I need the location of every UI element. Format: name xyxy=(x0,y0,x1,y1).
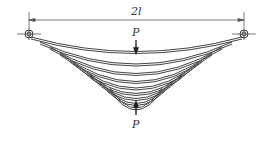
dimension-arrow-right xyxy=(238,19,244,22)
load-label-bottom: P xyxy=(132,118,139,131)
load-label-top: P xyxy=(132,26,139,39)
dimension-arrow-left xyxy=(29,19,35,22)
dimension-label: 2l xyxy=(131,5,142,18)
